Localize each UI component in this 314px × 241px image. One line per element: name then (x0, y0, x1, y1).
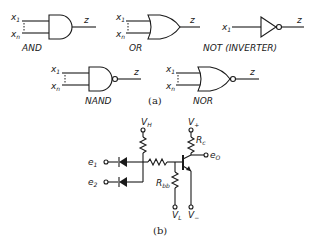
nor-input-xn: xn (165, 81, 175, 92)
not-label: NOT (INVERTER) (203, 43, 277, 53)
or-gate: x1 xn z OR (115, 12, 200, 53)
vplus-label: V+ (188, 117, 199, 128)
not-input-x1: x1 (221, 22, 231, 33)
e2-terminal (104, 180, 108, 184)
or-gate-symbol (148, 15, 180, 39)
nor-input-x1: x1 (165, 64, 175, 75)
and-gate-symbol (49, 15, 72, 39)
nor-gate-symbol (198, 67, 230, 91)
figure-canvas: x1 xn z AND x1 xn z OR x1 z NOT (INVERTE… (0, 0, 314, 241)
not-output-z: z (296, 15, 302, 25)
caption-b: (b) (153, 225, 167, 236)
vminus-label: V− (188, 210, 199, 221)
e1-terminal (104, 160, 108, 164)
resistor-vh-icon (140, 137, 146, 153)
e1-label: e1 (88, 157, 97, 168)
resistor-rc-icon (188, 137, 194, 153)
vl-terminal (173, 205, 177, 209)
nor-gate: x1 xn z NOR (165, 64, 259, 106)
eo-terminal (204, 153, 208, 157)
vh-terminal (141, 128, 145, 132)
npn-transistor-icon (183, 155, 191, 171)
and-label: AND (21, 43, 42, 53)
or-input-x1: x1 (115, 12, 125, 23)
and-gate: x1 xn z AND (10, 12, 96, 53)
nand-input-x1: x1 (50, 64, 60, 75)
resistor-rbb-icon (172, 172, 178, 188)
nor-output-z: z (249, 67, 255, 77)
not-gate-symbol (261, 17, 276, 37)
or-input-xn: xn (115, 29, 125, 40)
not-gate: x1 z NOT (INVERTER) (203, 15, 304, 53)
and-output-z: z (83, 15, 89, 25)
rbb-label: Rbb (156, 178, 170, 189)
inversion-bubble (277, 25, 282, 30)
eo-label: eO (210, 150, 221, 161)
dtl-nand-circuit: e1 e2 eO VH V+ VL V− Rc Rbb (88, 117, 221, 221)
vplus-terminal (189, 128, 193, 132)
nand-output-z: z (133, 67, 139, 77)
and-input-x1: x1 (10, 12, 20, 23)
vl-label: VL (172, 210, 182, 221)
logic-gates-figure: x1 xn z AND x1 xn z OR x1 z NOT (INVERTE… (0, 0, 314, 241)
caption-a: (a) (148, 95, 162, 106)
or-label: OR (129, 43, 142, 53)
resistor-series-icon (148, 159, 167, 165)
and-input-xn: xn (10, 29, 20, 40)
vh-label: VH (141, 117, 152, 128)
diode-2-icon (119, 177, 127, 187)
rc-label: Rc (196, 135, 206, 146)
nand-gate: x1 xn z NAND (50, 64, 141, 106)
nand-label: NAND (85, 96, 112, 106)
inversion-bubble (231, 77, 236, 82)
or-output-z: z (189, 15, 195, 25)
vminus-terminal (189, 205, 193, 209)
e2-label: e2 (88, 177, 98, 188)
diode-1-icon (119, 157, 127, 167)
nand-input-xn: xn (50, 81, 60, 92)
nor-label: NOR (193, 96, 213, 106)
inversion-bubble (113, 77, 118, 82)
nand-gate-symbol (89, 67, 112, 91)
